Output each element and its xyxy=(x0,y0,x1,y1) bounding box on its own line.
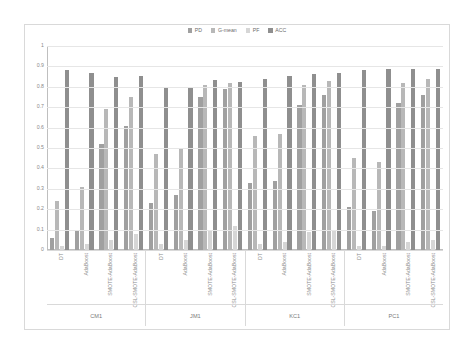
y-axis-tick-label: 0.9 xyxy=(37,64,44,69)
bar-acc[interactable] xyxy=(65,70,69,250)
legend-item-g-mean[interactable]: G-mean xyxy=(211,28,237,33)
bar-g-mean[interactable] xyxy=(203,85,207,250)
bar-acc[interactable] xyxy=(411,69,415,250)
bar-acc[interactable] xyxy=(436,69,440,250)
y-axis-tick-label: 0.7 xyxy=(37,105,44,110)
bar-pf[interactable] xyxy=(406,242,410,250)
legend-label: G-mean xyxy=(218,28,237,33)
bar-g-mean[interactable] xyxy=(129,97,133,250)
x-axis-method-label: AdaBoost xyxy=(382,253,387,276)
bar-acc[interactable] xyxy=(114,77,118,250)
method-label-slot: DT xyxy=(246,251,271,304)
x-axis-method-label: SMOTE-AdaBoost xyxy=(307,253,312,296)
method-label-slot: DT xyxy=(146,251,171,304)
bar-acc[interactable] xyxy=(337,73,341,250)
method-label-slot: SMOTE-AdaBoost xyxy=(195,251,220,304)
method-label-slot: SMOTE-AdaBoost xyxy=(295,251,320,304)
x-axis-method-label: SMOTE-AdaBoost xyxy=(406,253,411,296)
x-axis-method-label: DT xyxy=(357,253,362,260)
plot-area: 10.90.80.70.60.50.40.30.20.10 xyxy=(47,46,443,250)
method-label-slot: DT xyxy=(47,251,72,304)
bar-g-mean[interactable] xyxy=(327,81,331,250)
method-label-slot: AdaBoost xyxy=(72,251,97,304)
bar-pd[interactable] xyxy=(75,230,79,250)
method-label-slot: SMOTE-AdaBoost xyxy=(96,251,121,304)
method-label-cell-cm1: DTAdaBoostSMOTE-AdaBoostCSL-SMOTE-AdaBoo… xyxy=(47,251,146,304)
bar-acc[interactable] xyxy=(287,76,291,250)
y-axis-tick-label: 0.6 xyxy=(37,125,44,130)
y-axis-tick-label: 0 xyxy=(41,247,44,252)
bar-pd[interactable] xyxy=(421,95,425,250)
dataset-axis-labels: CM1JM1KC1PC1 xyxy=(47,304,443,326)
gridline xyxy=(47,46,443,47)
bar-acc[interactable] xyxy=(362,70,366,250)
bar-acc[interactable] xyxy=(386,69,390,250)
bar-acc[interactable] xyxy=(263,79,267,250)
bar-pd[interactable] xyxy=(347,207,351,250)
bar-g-mean[interactable] xyxy=(278,134,282,250)
x-axis-method-label: CSL-SMOTE-AdaBoost xyxy=(331,253,336,308)
bar-g-mean[interactable] xyxy=(352,158,356,250)
bar-pf[interactable] xyxy=(307,232,311,250)
bar-pd[interactable] xyxy=(322,95,326,250)
bar-g-mean[interactable] xyxy=(80,187,84,250)
method-label-slot: AdaBoost xyxy=(171,251,196,304)
method-label-slot: AdaBoost xyxy=(369,251,394,304)
bar-pd[interactable] xyxy=(372,211,376,250)
y-axis-tick-label: 0.3 xyxy=(37,186,44,191)
bar-pf[interactable] xyxy=(208,230,212,250)
bar-g-mean[interactable] xyxy=(426,79,430,250)
bar-acc[interactable] xyxy=(312,74,316,250)
bar-pd[interactable] xyxy=(174,195,178,250)
bar-pd[interactable] xyxy=(198,97,202,250)
method-label-slot: CSL-SMOTE-AdaBoost xyxy=(220,251,245,304)
bar-acc[interactable] xyxy=(213,80,217,250)
bar-pd[interactable] xyxy=(273,181,277,250)
method-label-slot: CSL-SMOTE-AdaBoost xyxy=(319,251,344,304)
chart-frame: PDG-meanPFACC 10.90.80.70.60.50.40.30.20… xyxy=(24,24,450,330)
bar-pf[interactable] xyxy=(184,240,188,250)
bar-pd[interactable] xyxy=(396,103,400,250)
bar-pf[interactable] xyxy=(109,240,113,250)
bar-acc[interactable] xyxy=(89,73,93,250)
bar-pd[interactable] xyxy=(124,126,128,250)
x-axis-method-label: DT xyxy=(258,253,263,260)
bar-pd[interactable] xyxy=(50,238,54,250)
bar-g-mean[interactable] xyxy=(302,85,306,250)
x-axis-method-label: SMOTE-AdaBoost xyxy=(208,253,213,296)
method-label-slot: CSL-SMOTE-AdaBoost xyxy=(418,251,443,304)
bar-pf[interactable] xyxy=(134,234,138,250)
gridline xyxy=(47,148,443,149)
legend-item-pd[interactable]: PD xyxy=(188,28,202,33)
bar-pd[interactable] xyxy=(248,183,252,250)
gridline xyxy=(47,168,443,169)
bar-g-mean[interactable] xyxy=(179,148,183,250)
y-axis-tick-label: 0.4 xyxy=(37,166,44,171)
x-axis-method-label: AdaBoost xyxy=(183,253,188,276)
method-label-slot: CSL-SMOTE-AdaBoost xyxy=(121,251,146,304)
bar-pf[interactable] xyxy=(431,240,435,250)
bar-pd[interactable] xyxy=(223,89,227,250)
gridline xyxy=(47,107,443,108)
gridline xyxy=(47,189,443,190)
bar-pf[interactable] xyxy=(332,230,336,250)
bar-acc[interactable] xyxy=(139,76,143,250)
y-axis-tick-label: 1 xyxy=(41,43,44,48)
bar-pf[interactable] xyxy=(283,242,287,250)
bar-pd[interactable] xyxy=(99,144,103,250)
bar-g-mean[interactable] xyxy=(253,136,257,250)
method-axis-labels: DTAdaBoostSMOTE-AdaBoostCSL-SMOTE-AdaBoo… xyxy=(47,250,443,304)
y-axis-tick-label: 0.1 xyxy=(37,227,44,232)
legend-item-acc[interactable]: ACC xyxy=(268,28,286,33)
bar-g-mean[interactable] xyxy=(377,162,381,250)
legend-item-pf[interactable]: PF xyxy=(246,28,260,33)
legend-swatch-acc-icon xyxy=(268,28,273,33)
y-axis-tick-label: 0.2 xyxy=(37,207,44,212)
legend-swatch-pd-icon xyxy=(188,28,193,33)
x-axis-method-label: AdaBoost xyxy=(282,253,287,276)
x-axis-method-label: CSL-SMOTE-AdaBoost xyxy=(133,253,138,308)
gridline xyxy=(47,128,443,129)
gridline xyxy=(47,66,443,67)
x-axis-method-label: CSL-SMOTE-AdaBoost xyxy=(232,253,237,308)
x-axis-dataset-label: PC1 xyxy=(345,305,443,326)
